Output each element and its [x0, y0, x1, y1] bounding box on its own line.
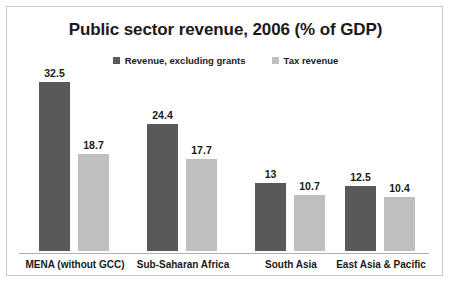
bar[interactable]: 13 [255, 183, 286, 251]
x-axis-line [19, 253, 429, 254]
bar[interactable]: 12.5 [345, 186, 376, 251]
bar-value-label: 17.7 [191, 144, 211, 156]
chart-container: Public sector revenue, 2006 (% of GDP) R… [6, 6, 443, 276]
bar-value-label: 10.4 [389, 182, 409, 194]
bar-group: 12.510.4 [331, 69, 431, 251]
bar-value-label: 18.7 [83, 139, 103, 151]
bar[interactable]: 18.7 [78, 154, 109, 251]
bar[interactable]: 17.7 [186, 159, 217, 251]
bar[interactable]: 24.4 [147, 124, 178, 251]
category-label: South Asia [241, 259, 341, 270]
bar-value-label: 12.5 [350, 171, 370, 183]
bar-group: 32.518.7 [25, 69, 125, 251]
plot-area: 32.518.724.417.71310.712.510.4 [19, 69, 432, 251]
bar-value-label: 24.4 [152, 109, 172, 121]
legend-label: Tax revenue [284, 55, 339, 66]
legend-item-tax-revenue[interactable]: Tax revenue [272, 55, 339, 66]
category-label: East Asia & Pacific [331, 259, 431, 270]
bar-value-label: 10.7 [299, 180, 319, 192]
bar[interactable]: 10.7 [294, 195, 325, 251]
bar-value-label: 32.5 [44, 67, 64, 79]
category-label: MENA (without GCC) [25, 259, 125, 270]
legend-label: Revenue, excluding grants [125, 55, 246, 66]
x-axis-tick-labels: MENA (without GCC)Sub-Saharan AfricaSout… [19, 259, 432, 275]
bar-group: 1310.7 [241, 69, 341, 251]
bar-group: 24.417.7 [133, 69, 233, 251]
legend-item-revenue-excluding-grants[interactable]: Revenue, excluding grants [113, 55, 246, 66]
bar-value-label: 13 [265, 168, 277, 180]
bar[interactable]: 32.5 [39, 82, 70, 251]
legend-swatch-icon [272, 57, 279, 64]
chart-title: Public sector revenue, 2006 (% of GDP) [7, 20, 443, 40]
chart-legend: Revenue, excluding grants Tax revenue [7, 55, 443, 66]
category-label: Sub-Saharan Africa [133, 259, 233, 270]
legend-swatch-icon [113, 57, 120, 64]
bar[interactable]: 10.4 [384, 197, 415, 251]
